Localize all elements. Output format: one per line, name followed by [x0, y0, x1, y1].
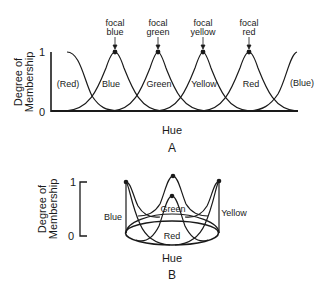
- focal-blue-dot: [124, 180, 129, 185]
- arrowhead-icon: [201, 45, 205, 49]
- focal-green-dot: [171, 174, 176, 179]
- focal-label-line2: yellow: [190, 27, 216, 37]
- panel-a-focal-arrows: [113, 37, 251, 49]
- arrowhead-icon: [247, 45, 251, 49]
- label-green: Green: [160, 204, 185, 214]
- arrowhead-icon: [156, 45, 160, 49]
- panel-b-letter: B: [168, 268, 176, 282]
- arrowhead-icon: [113, 45, 117, 49]
- curve-label: Green: [146, 79, 171, 89]
- label-blue: Blue: [104, 212, 122, 222]
- curve-label: Blue: [102, 79, 120, 89]
- focal-yellow-dot: [217, 179, 222, 184]
- panel-a: focal blue focal green focal yellow foca…: [12, 18, 314, 155]
- panel-a-x-axis-label: Hue: [162, 124, 182, 136]
- y-label-line2: Membership: [47, 179, 59, 240]
- panel-b-y-axis-label: Degree of Membership: [36, 179, 59, 240]
- curve-label: (Red): [57, 79, 80, 89]
- label-red: Red: [164, 231, 181, 241]
- y-tick-0: 0: [68, 230, 74, 242]
- focal-label-line2: blue: [106, 27, 123, 37]
- y-tick-0: 0: [39, 106, 45, 118]
- panel-a-y-axis-label: Degree of Membership: [12, 52, 35, 113]
- y-label-line2: Membership: [23, 52, 35, 113]
- focal-blue-dot: [113, 50, 118, 55]
- y-tick-1: 1: [70, 176, 76, 188]
- curve-label: Yellow: [191, 79, 217, 89]
- focal-yellow-dot: [201, 50, 206, 55]
- focal-label-line2: green: [146, 27, 169, 37]
- curve-label: Red: [243, 79, 260, 89]
- focal-green-dot: [156, 50, 161, 55]
- panel-b-focal-points: [124, 174, 222, 199]
- panel-b-x-axis-label: Hue: [162, 252, 182, 264]
- panel-a-focal-points: [113, 50, 252, 55]
- panel-a-focal-labels: focal blue focal green focal yellow foca…: [105, 18, 258, 37]
- panel-b: 1 0 Degree of Membership: [36, 174, 247, 282]
- panel-a-curve-labels: (Red) Blue Green Yellow Red (Blue): [57, 78, 314, 89]
- focal-red-dot: [170, 194, 175, 199]
- y-tick-1: 1: [39, 46, 45, 58]
- label-yellow: Yellow: [221, 208, 247, 218]
- panel-a-membership-curves: [65, 52, 297, 111]
- focal-label-line2: red: [242, 27, 255, 37]
- focal-red-dot: [247, 50, 252, 55]
- color-category-membership-diagram: focal blue focal green focal yellow foca…: [0, 0, 326, 290]
- curve-label: (Blue): [290, 78, 314, 88]
- panel-a-letter: A: [168, 141, 176, 155]
- panel-b-y-axis-bracket: [80, 182, 87, 236]
